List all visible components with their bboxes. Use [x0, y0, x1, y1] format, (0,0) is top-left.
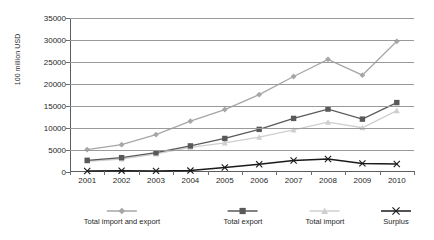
x-tick-label: 2001	[78, 176, 96, 185]
x-tick-label: 2009	[353, 176, 371, 185]
gridline	[70, 106, 414, 107]
y-tick-mark	[66, 150, 70, 151]
y-tick-mark	[66, 106, 70, 107]
x-tick-label: 2008	[319, 176, 337, 185]
data-point-diamond	[222, 107, 228, 113]
gridline	[70, 62, 414, 63]
y-axis-tick-labels: 05000100001500020000250003000035000	[18, 0, 66, 240]
gridline	[70, 18, 414, 19]
legend-marker-triangle-icon	[308, 206, 342, 216]
x-tick-mark	[242, 171, 243, 175]
legend-item-total-import-and-export[interactable]: Total import and export	[84, 206, 160, 226]
legend-item-surplus[interactable]: Surplus	[379, 206, 413, 226]
x-tick-label: 2003	[147, 176, 165, 185]
series-line	[87, 111, 397, 162]
x-tick-mark	[208, 171, 209, 175]
data-point-square	[360, 116, 365, 121]
x-axis-tick-labels: 2001200220032004200520062007200820092010	[70, 176, 414, 190]
y-tick-label: 10000	[20, 124, 66, 133]
x-tick-mark	[104, 171, 105, 175]
x-tick-label: 2006	[250, 176, 268, 185]
legend-marker-diamond-icon	[105, 206, 139, 216]
gridline	[70, 128, 414, 129]
data-point-square	[85, 158, 90, 163]
x-tick-mark	[345, 171, 346, 175]
data-point-diamond	[153, 132, 159, 138]
y-tick-label: 20000	[20, 80, 66, 89]
data-point-square	[119, 155, 124, 160]
x-tick-mark	[414, 171, 415, 175]
series-total-import-and-export	[84, 38, 399, 152]
x-tick-mark	[70, 171, 71, 175]
data-point-diamond	[291, 74, 297, 80]
data-point-diamond	[188, 118, 194, 124]
data-point-square	[325, 106, 330, 111]
gridline	[70, 40, 414, 41]
gridline	[70, 84, 414, 85]
x-tick-label: 2005	[216, 176, 234, 185]
y-tick-label: 35000	[20, 14, 66, 23]
x-tick-label: 2004	[181, 176, 199, 185]
data-point-diamond	[256, 92, 262, 98]
data-point-square	[394, 100, 399, 105]
x-tick-label: 2002	[113, 176, 131, 185]
x-tick-mark	[311, 171, 312, 175]
data-point-diamond	[119, 142, 125, 148]
y-tick-mark	[66, 128, 70, 129]
y-tick-label: 15000	[20, 102, 66, 111]
legend-label: Total import	[306, 217, 345, 226]
y-tick-mark	[66, 62, 70, 63]
legend-item-total-export[interactable]: Total export	[224, 206, 263, 226]
legend-marker-x-icon	[379, 206, 413, 216]
x-tick-mark	[276, 171, 277, 175]
series-line	[87, 103, 397, 161]
series-line	[87, 159, 397, 171]
line-chart: 100 million USD 050001000015000200002500…	[0, 0, 434, 240]
y-tick-mark	[66, 84, 70, 85]
legend-label: Surplus	[379, 217, 413, 226]
legend-label: Total import and export	[84, 217, 160, 226]
plot-area	[70, 18, 414, 172]
y-tick-label: 5000	[20, 146, 66, 155]
legend-label: Total export	[224, 217, 263, 226]
data-point-square	[240, 208, 246, 214]
y-tick-label: 0	[20, 168, 66, 177]
data-point-square	[222, 136, 227, 141]
x-tick-mark	[380, 171, 381, 175]
data-point-diamond	[119, 208, 126, 215]
data-point-triangle	[394, 108, 400, 114]
data-point-square	[188, 143, 193, 148]
data-point-square	[291, 116, 296, 121]
y-tick-label: 30000	[20, 36, 66, 45]
legend-marker-square-icon	[226, 206, 260, 216]
legend-item-total-import[interactable]: Total import	[306, 206, 345, 226]
gridline	[70, 150, 414, 151]
y-tick-mark	[66, 18, 70, 19]
x-tick-mark	[139, 171, 140, 175]
y-tick-mark	[66, 40, 70, 41]
series-total-export	[85, 100, 400, 163]
x-tick-label: 2010	[388, 176, 406, 185]
x-tick-mark	[173, 171, 174, 175]
x-tick-label: 2007	[285, 176, 303, 185]
y-tick-label: 25000	[20, 58, 66, 67]
chart-legend: Total import and exportTotal exportTotal…	[0, 206, 434, 232]
series-layer	[70, 18, 414, 172]
